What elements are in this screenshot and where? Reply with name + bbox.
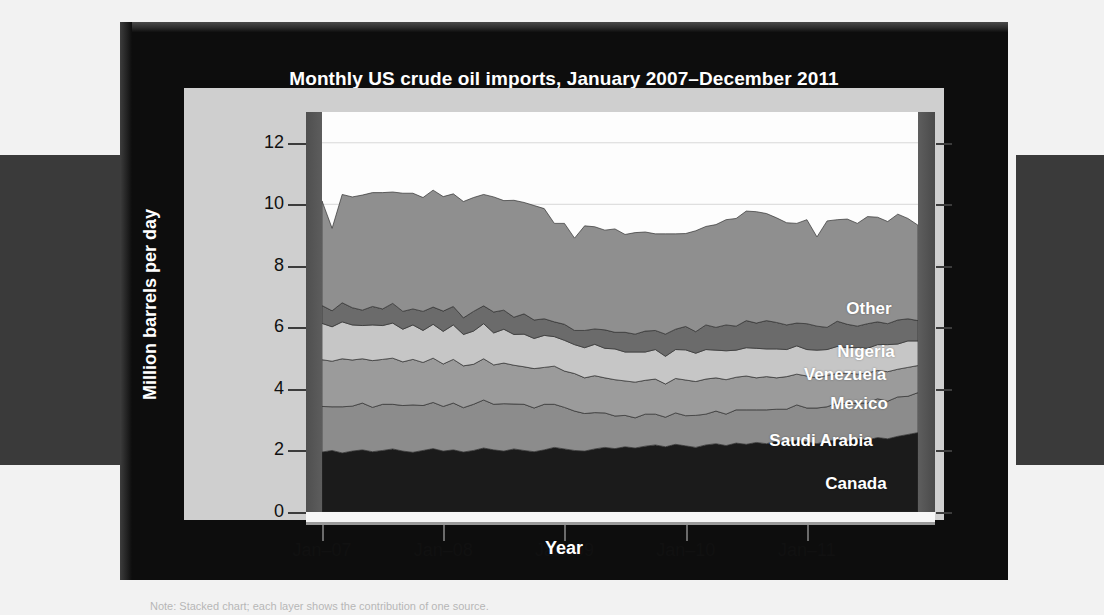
y-tick-mark — [288, 450, 306, 452]
y-tick-label: 8 — [244, 255, 284, 276]
frame-bevel-left — [120, 22, 132, 580]
y-axis-title-text: Million barrels per day — [141, 208, 162, 399]
y-tick-mark-right — [936, 389, 952, 391]
series-label-venezuela: Venezuela — [804, 365, 886, 385]
figure-frame: Monthly US crude oil imports, January 20… — [120, 22, 1008, 580]
plot-wall-right — [918, 112, 935, 522]
y-tick-mark — [288, 204, 306, 206]
y-tick-label: 12 — [244, 132, 284, 153]
y-tick-mark-right — [936, 204, 952, 206]
y-axis-title: Million barrels per day — [134, 88, 168, 520]
y-tick-label: 2 — [244, 439, 284, 460]
y-tick-mark-right — [936, 266, 952, 268]
y-tick-mark — [288, 143, 306, 145]
y-tick-mark — [288, 512, 306, 514]
series-label-saudi-arabia: Saudi Arabia — [769, 431, 872, 451]
series-label-other: Other — [846, 299, 891, 319]
y-tick-mark-right — [936, 143, 952, 145]
y-tick-mark — [288, 389, 306, 391]
y-tick-mark — [288, 266, 306, 268]
y-tick-label: 4 — [244, 378, 284, 399]
series-label-mexico: Mexico — [830, 394, 888, 414]
y-tick-label: 6 — [244, 316, 284, 337]
y-tick-mark-right — [936, 450, 952, 452]
chart-title: Monthly US crude oil imports, January 20… — [120, 68, 1008, 90]
y-tick-mark-right — [936, 512, 952, 514]
series-label-canada: Canada — [825, 474, 886, 494]
y-tick-mark — [288, 327, 306, 329]
frame-bevel-top — [120, 22, 1008, 32]
series-label-nigeria: Nigeria — [837, 342, 895, 362]
background-strip-right — [1016, 155, 1104, 465]
y-tick-label: 0 — [244, 501, 284, 522]
stacked-area-chart — [322, 112, 918, 512]
x-axis-title: Year — [120, 538, 1008, 559]
plot-wall-left — [306, 112, 323, 522]
figure-caption: Note: Stacked chart; each layer shows th… — [150, 600, 950, 612]
plot-area — [322, 112, 918, 512]
y-tick-mark-right — [936, 327, 952, 329]
plot-floor-edge — [306, 522, 935, 525]
axis-panel: 024681012 Jan–07Jan–08Jan–09Jan–10Jan–11 — [184, 88, 944, 520]
y-tick-label: 10 — [244, 193, 284, 214]
background-strip-left — [0, 155, 120, 465]
